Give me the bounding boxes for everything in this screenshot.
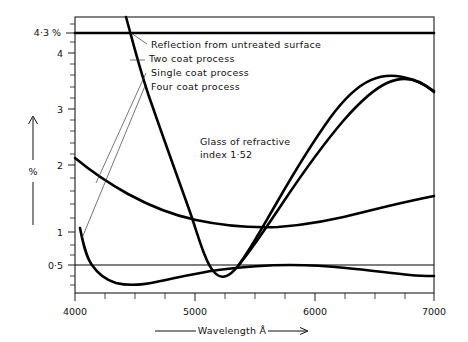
- legend-label-four-coat: Four coat process: [151, 81, 240, 92]
- leader-four-coat: [82, 86, 145, 238]
- legend-label-single-coat: Single coat process: [151, 67, 249, 78]
- y-tick-label-2: 2: [57, 160, 63, 171]
- chart-svg: 4·3 % 4 3 2 1 0·5 % 4000: [0, 0, 468, 342]
- y-axis-label: %: [28, 166, 37, 177]
- x-tick-label-7000: 7000: [422, 306, 446, 317]
- x-tick-label-5000: 5000: [183, 306, 207, 317]
- x-axis-label: Wavelength Å: [198, 325, 267, 336]
- y-tick-label-3: 3: [57, 104, 63, 115]
- reflection-chart-figure: 4·3 % 4 3 2 1 0·5 % 4000: [0, 0, 468, 342]
- y-tick-label-4-3: 4·3 %: [34, 27, 61, 38]
- plot-frame: [75, 17, 434, 293]
- y-axis-ticks: [66, 24, 75, 285]
- y-tick-label-4: 4: [57, 48, 63, 59]
- annotation-line-2: index 1·52: [200, 149, 252, 160]
- x-axis-ticks: [75, 293, 434, 301]
- y-tick-label-0-5: 0·5: [48, 260, 63, 271]
- legend-label-two-coat: Two coat process: [148, 53, 235, 64]
- legend-label-untreated-surface: Reflection from untreated surface: [151, 39, 321, 50]
- series-line-single-coat: [75, 158, 434, 227]
- y-tick-label-1: 1: [57, 227, 63, 238]
- x-tick-label-6000: 6000: [303, 306, 327, 317]
- x-tick-label-4000: 4000: [63, 306, 87, 317]
- annotation-line-1: Glass of refractive: [200, 136, 290, 147]
- leader-single-coat: [96, 73, 146, 183]
- series-line-two-coat-right: [238, 79, 434, 266]
- legend-leader-lines: [82, 33, 147, 238]
